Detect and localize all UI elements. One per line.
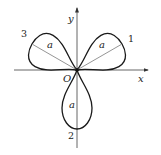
petal-3-number: 3 [21, 28, 27, 39]
petal-1-radius-label: a [99, 39, 105, 50]
rose-diagram: y x O 1 3 2 a a a [0, 0, 161, 155]
origin-point [75, 68, 79, 72]
y-axis-label: y [67, 13, 74, 24]
petal-3 [23, 28, 86, 85]
petal-2-number: 2 [68, 130, 74, 141]
origin-label: O [63, 73, 71, 84]
petal-1 [68, 28, 131, 85]
x-axis-label: x [138, 73, 144, 84]
petal-3-radius-label: a [47, 39, 53, 50]
petal-1-number: 1 [128, 33, 134, 44]
petal-3-radius [33, 45, 77, 71]
petal-2-radius-label: a [69, 99, 75, 110]
